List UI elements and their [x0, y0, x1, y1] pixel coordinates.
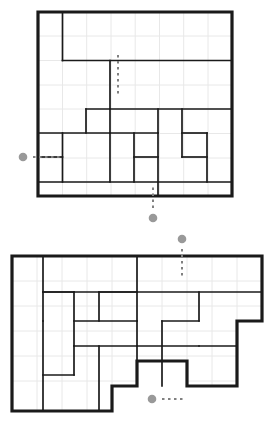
- entry-marker-left-dot[interactable]: [19, 153, 28, 162]
- entry-marker-notch-dot[interactable]: [148, 395, 157, 404]
- puzzle-svg: [0, 0, 276, 432]
- entry-marker-top-dot[interactable]: [178, 235, 187, 244]
- entry-marker-bottom-dot[interactable]: [149, 214, 158, 223]
- puzzle-canvas: [0, 0, 276, 432]
